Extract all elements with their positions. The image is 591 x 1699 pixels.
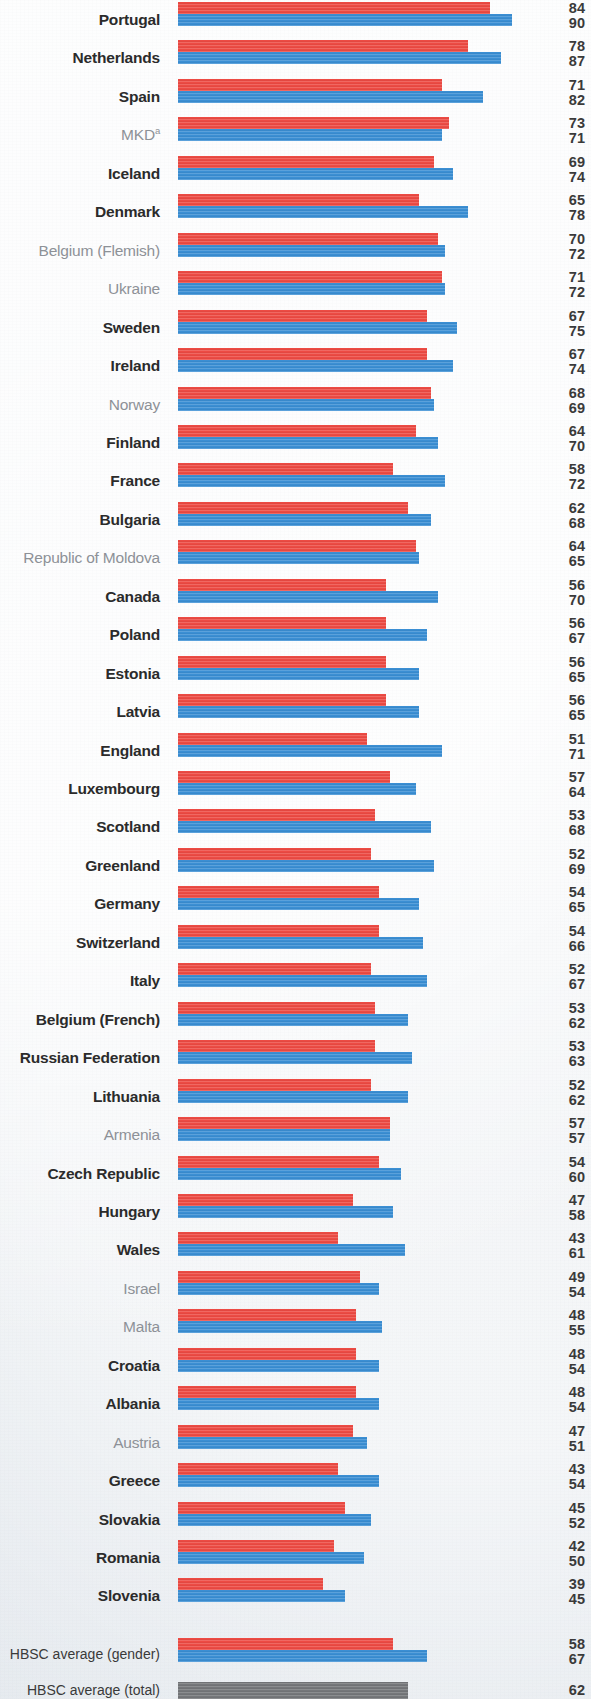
bar-red [178,1117,390,1129]
bar-blue [178,783,416,795]
value-series-2: 60 [515,1170,585,1185]
category-label: Ireland [0,357,160,375]
bar-red [178,194,419,206]
chart-row: Latvia5665 [0,694,591,718]
summary-value-2: 67 [515,1652,585,1667]
bar-blue [178,399,434,411]
value-series-1: 56 [515,655,585,670]
value-labels: 6578 [515,193,585,223]
value-labels: 5667 [515,616,585,646]
bar-blue [178,821,431,833]
chart-row: Israel4954 [0,1271,591,1295]
category-label: Hungary [0,1203,160,1221]
bar-red [178,2,490,14]
bar-blue [178,1129,390,1141]
value-series-1: 56 [515,693,585,708]
value-labels: 5665 [515,655,585,685]
bar-group [178,579,438,603]
chart-row: Ukraine7172 [0,271,591,295]
chart-row: Albania4854 [0,1386,591,1410]
category-label: Poland [0,626,160,644]
value-series-2: 72 [515,477,585,492]
bar-red [178,1040,375,1052]
bar-blue [178,129,442,141]
bar-group [178,1348,379,1372]
value-labels: 7887 [515,39,585,69]
chart-row: Czech Republic5460 [0,1156,591,1180]
value-series-2: 54 [515,1285,585,1300]
summary-values: 62 [515,1683,585,1698]
value-series-1: 56 [515,616,585,631]
bar-group [178,233,445,257]
summary-values: 5867 [515,1637,585,1667]
value-series-2: 75 [515,324,585,339]
bar-red [178,1232,338,1244]
value-series-2: 69 [515,862,585,877]
value-labels: 6465 [515,539,585,569]
value-labels: 7072 [515,232,585,262]
value-labels: 5466 [515,924,585,954]
chart-row: Hungary4758 [0,1194,591,1218]
value-labels: 6774 [515,347,585,377]
value-labels: 6974 [515,155,585,185]
bar-group [178,733,442,757]
chart-row: France5872 [0,463,591,487]
value-series-2: 78 [515,208,585,223]
chart-row: Italy5267 [0,963,591,987]
value-series-1: 71 [515,270,585,285]
bar-red [178,579,386,591]
value-series-1: 54 [515,924,585,939]
category-label: Norway [0,396,160,414]
bar-group [178,925,423,949]
chart-row: Iceland6974 [0,156,591,180]
value-series-1: 54 [515,1155,585,1170]
chart-row: Norway6869 [0,387,591,411]
value-series-2: 65 [515,670,585,685]
bar-blue [178,1014,408,1026]
chart-row: England5171 [0,733,591,757]
bar-red [178,848,371,860]
bar-red [178,540,416,552]
value-series-2: 87 [515,54,585,69]
bar-blue [178,1168,401,1180]
value-series-1: 45 [515,1501,585,1516]
value-series-1: 53 [515,1039,585,1054]
value-series-1: 73 [515,116,585,131]
bar-red [178,233,438,245]
value-labels: 5665 [515,693,585,723]
value-series-1: 69 [515,155,585,170]
bar-group [178,194,468,218]
chart-row: Malta4855 [0,1309,591,1333]
value-labels: 5757 [515,1116,585,1146]
category-label: Portugal [0,11,160,29]
value-series-2: 68 [515,823,585,838]
value-labels: 5171 [515,732,585,762]
bar-group [178,1425,367,1449]
category-label: Israel [0,1280,160,1298]
bar-blue [178,668,419,680]
bar-blue [178,1398,379,1410]
category-label: Romania [0,1549,160,1567]
value-labels: 4354 [515,1462,585,1492]
chart-row: Finland6470 [0,425,591,449]
bar-blue [178,475,445,487]
bar-red [178,925,379,937]
category-label: Republic of Moldova [0,549,160,567]
bar-blue [178,1206,393,1218]
summary-value-1: 62 [515,1683,585,1698]
value-labels: 5460 [515,1155,585,1185]
bar-group [178,963,427,987]
value-labels: 4361 [515,1231,585,1261]
summary-row: HBSC average (gender)5867 [0,1638,591,1662]
category-label: Belgium (French) [0,1011,160,1029]
bar-group [178,1502,371,1526]
value-series-2: 63 [515,1054,585,1069]
category-label: France [0,472,160,490]
value-labels: 4954 [515,1270,585,1300]
bar-group [178,540,419,564]
value-labels: 5362 [515,1001,585,1031]
value-series-1: 62 [515,501,585,516]
value-series-2: 65 [515,900,585,915]
category-label: Netherlands [0,49,160,67]
category-label: Armenia [0,1126,160,1144]
